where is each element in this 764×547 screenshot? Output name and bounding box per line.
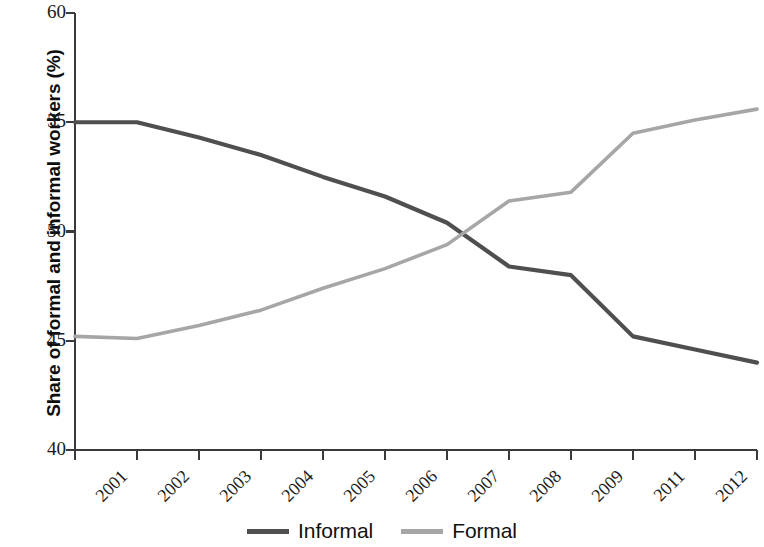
legend-swatch-informal [247,529,289,534]
series-line-formal [75,109,757,338]
legend-label-informal: Informal [298,519,373,543]
legend-label-formal: Formal [452,519,517,543]
series-line-informal [75,122,757,362]
line-chart: Share of formal and informal workers (%)… [0,0,764,547]
legend-swatch-formal [401,529,443,534]
legend-item-formal[interactable]: Formal [401,519,517,543]
chart-legend: Informal Formal [0,519,764,543]
legend-item-informal[interactable]: Informal [247,519,373,543]
axes [66,13,757,460]
data-series [75,109,757,362]
plot-area [0,0,764,547]
